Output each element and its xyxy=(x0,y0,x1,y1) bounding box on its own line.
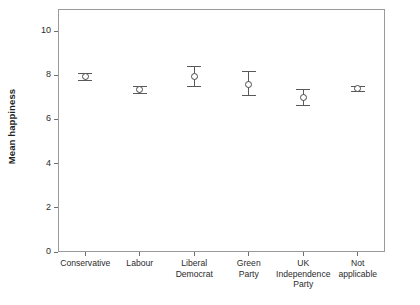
error-bar-cap-lower xyxy=(133,93,147,94)
y-tick-label: 4 xyxy=(46,157,51,170)
x-tick-mark xyxy=(194,252,195,256)
y-tick-label: 8 xyxy=(46,68,51,81)
x-tick-mark xyxy=(139,252,140,256)
error-bar-cap-lower xyxy=(296,105,310,106)
y-tick-label: 6 xyxy=(46,112,51,125)
y-tick-label: 2 xyxy=(46,201,51,214)
chart-figure: Mean happiness 0246810 ConservativeLabou… xyxy=(0,0,420,305)
x-tick-mark xyxy=(357,252,358,256)
plot-area xyxy=(58,9,385,252)
error-bar-cap-lower xyxy=(187,86,201,87)
error-bar-cap-lower xyxy=(242,95,256,96)
x-tick-label: Not applicable xyxy=(313,258,403,279)
error-bar-cap-upper xyxy=(242,71,256,72)
x-tick-mark xyxy=(85,252,86,256)
mean-marker xyxy=(191,73,198,80)
x-tick-mark xyxy=(248,252,249,256)
error-bar-cap-upper xyxy=(187,66,201,67)
y-tick-label: 0 xyxy=(46,245,51,258)
y-axis-title-container: Mean happiness xyxy=(0,0,24,252)
y-tick-label: 10 xyxy=(41,24,51,37)
mean-marker xyxy=(245,81,252,88)
mean-marker xyxy=(300,94,307,101)
mean-marker xyxy=(82,73,89,80)
error-bar-cap-upper xyxy=(296,89,310,90)
x-tick-mark xyxy=(303,252,304,256)
y-axis-title: Mean happiness xyxy=(7,88,18,163)
